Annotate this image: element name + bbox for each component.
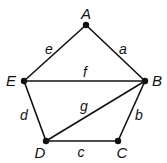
edge-e: [24, 25, 86, 81]
vertex-label-D: D: [35, 144, 46, 161]
vertex-E: [21, 78, 27, 84]
edge-label-c: c: [78, 144, 85, 160]
vertex-label-C: C: [117, 144, 128, 161]
vertex-A: [83, 22, 89, 28]
edge-a: [86, 25, 145, 81]
graph-labels: abcdefgABCDE: [6, 5, 162, 161]
edge-g: [46, 81, 145, 141]
graph-diagram: abcdefgABCDE: [0, 0, 167, 163]
edge-label-g: g: [80, 98, 88, 114]
vertex-label-E: E: [6, 72, 17, 89]
edge-label-a: a: [119, 41, 127, 57]
vertex-label-A: A: [80, 5, 91, 22]
edge-label-e: e: [45, 41, 53, 57]
edge-label-b: b: [135, 107, 143, 123]
edge-label-d: d: [20, 107, 29, 123]
edge-label-f: f: [83, 64, 89, 80]
vertex-B: [142, 78, 148, 84]
vertex-label-B: B: [152, 72, 162, 89]
